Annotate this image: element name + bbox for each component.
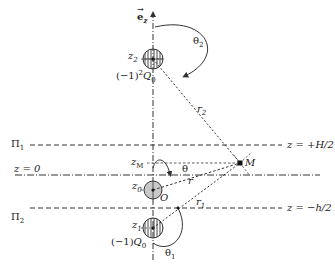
- zm-label: zM: [131, 157, 143, 170]
- r-label: r: [188, 176, 193, 186]
- plane-pi2-equation: z = −h/2: [287, 203, 332, 213]
- charge-bottom-label: (−1)Q0: [111, 237, 146, 250]
- z1-label: z1: [132, 220, 142, 233]
- theta2-arc: [155, 25, 208, 76]
- theta-label: θ: [182, 164, 188, 174]
- point-m-label: M: [245, 158, 255, 168]
- image-charges-diagram: → ez z2 (−1)2Q0 θ2 r2 Π1 z = +H/2 zM M z…: [0, 0, 335, 268]
- theta-arc: [153, 160, 170, 174]
- z2-label: z2: [128, 51, 138, 64]
- r2-label: r2: [197, 104, 206, 117]
- axis-label: → ez: [137, 12, 147, 24]
- plane-pi1-label: Π1: [11, 139, 24, 152]
- diagram-graphics: [0, 0, 335, 268]
- charge-top-label: (−1)2Q0: [116, 70, 156, 84]
- theta2-label: θ2: [193, 36, 204, 49]
- theta1-label: θ1: [165, 248, 176, 261]
- plane-z0-equation: z = 0: [14, 164, 40, 174]
- plane-pi1-equation: z = +H/2: [287, 140, 334, 150]
- plane-pi2-label: Π2: [11, 212, 24, 225]
- r1-label: r1: [196, 197, 205, 210]
- point-m: [238, 161, 243, 166]
- r-line: [153, 163, 240, 190]
- z0-label: z0: [132, 181, 142, 194]
- origin-label: O: [160, 193, 168, 203]
